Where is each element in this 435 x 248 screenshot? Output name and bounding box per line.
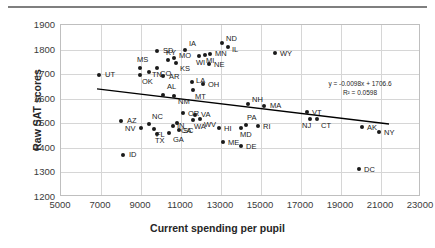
regression-r2: R² = 0.0598 (318, 88, 402, 97)
data-point-il[interactable] (226, 45, 230, 49)
data-point-pa[interactable] (244, 123, 248, 127)
data-point-ak[interactable] (360, 125, 364, 129)
data-point-dc[interactable] (357, 167, 361, 171)
scatter-chart: Raw SAT scores 1200130014001500160017001… (0, 0, 435, 248)
data-point-vt[interactable] (305, 110, 309, 114)
data-point-or[interactable] (181, 111, 185, 115)
data-point-label-nc: NC (152, 113, 163, 121)
data-point-label-ks: KS (180, 65, 190, 73)
data-point-label-ms: MS (137, 56, 148, 64)
data-point-ia[interactable] (183, 48, 187, 52)
data-point-ri[interactable] (256, 124, 260, 128)
data-point-label-wv: WV (204, 121, 216, 129)
data-point-label-md: MD (240, 131, 252, 139)
data-point-nd[interactable] (220, 41, 224, 45)
x-axis-tick-label: 21000 (367, 199, 393, 210)
x-axis-tick-label: 19000 (327, 199, 353, 210)
data-point-label-nv: NV (125, 125, 135, 133)
data-point-mt[interactable] (191, 88, 195, 92)
data-point-label-tx: TX (155, 137, 165, 145)
data-point-de[interactable] (239, 144, 243, 148)
data-point-label-me: ME (228, 139, 239, 147)
data-point-sd[interactable] (155, 49, 159, 53)
data-point-ky[interactable] (166, 58, 170, 62)
data-point-ct[interactable] (315, 117, 319, 121)
data-point-label-la: LA (196, 77, 205, 85)
data-point-nv[interactable] (139, 126, 143, 130)
data-point-ar[interactable] (161, 74, 165, 78)
data-point-label-al: AL (167, 83, 176, 91)
top-divider (8, 6, 427, 8)
y-axis-tick-label: 1900 (0, 19, 55, 30)
data-point-label-il: IL (232, 46, 238, 54)
data-point-mo[interactable] (172, 56, 176, 60)
data-point-ca[interactable] (175, 121, 179, 125)
x-axis-tick-label: 17000 (287, 199, 313, 210)
data-point-label-ny: NY (384, 129, 394, 137)
data-point-id[interactable] (121, 153, 125, 157)
data-point-ga[interactable] (167, 131, 171, 135)
data-point-label-nh: NH (252, 96, 263, 104)
data-point-ms[interactable] (138, 66, 142, 70)
data-point-mn[interactable] (208, 52, 212, 56)
y-axis-tick-label: 1400 (0, 141, 55, 152)
data-point-wv[interactable] (198, 117, 202, 121)
data-point-label-ca: CA (181, 127, 191, 135)
x-axis-tick-label: 5000 (49, 199, 70, 210)
y-axis-tick-label: 1200 (0, 191, 55, 202)
data-point-in[interactable] (171, 124, 175, 128)
y-axis-label: Raw SAT scores (31, 69, 43, 151)
data-point-tn[interactable] (147, 70, 151, 74)
data-point-label-ga: GA (173, 136, 184, 144)
data-point-ma[interactable] (262, 104, 266, 108)
y-axis-tick-label: 1700 (0, 68, 55, 79)
data-point-label-ia: IA (189, 40, 196, 48)
y-axis-tick-label: 1500 (0, 117, 55, 128)
y-axis-tick-label: 1800 (0, 43, 55, 54)
data-point-label-vt: VT (312, 109, 322, 117)
x-axis-tick-label: 9000 (129, 199, 150, 210)
x-axis-label: Current spending per pupil (0, 222, 435, 234)
y-axis-tick-label: 1300 (0, 166, 55, 177)
data-point-ut[interactable] (97, 73, 101, 77)
data-point-label-ak: AK (367, 124, 377, 132)
data-point-label-id: ID (129, 151, 137, 159)
y-axis-tick-label: 1600 (0, 92, 55, 103)
data-point-co[interactable] (155, 66, 159, 70)
data-point-label-ma: MA (270, 102, 281, 110)
data-point-ny[interactable] (377, 130, 381, 134)
x-axis-tick-label: 7000 (89, 199, 110, 210)
data-point-va[interactable] (193, 113, 197, 117)
regression-equation-line: y = -0.0098x + 1706.6 (318, 79, 402, 88)
x-axis-tick-label: 23000 (407, 199, 433, 210)
data-point-nm[interactable] (172, 94, 176, 98)
data-point-nc[interactable] (147, 122, 151, 126)
data-point-nh[interactable] (246, 102, 250, 106)
data-point-label-mo: MO (179, 52, 191, 60)
data-point-nj[interactable] (308, 117, 312, 121)
data-point-label-nj: NJ (302, 122, 311, 130)
x-axis-tick-label: 15000 (247, 199, 273, 210)
data-point-label-ct: CT (321, 122, 331, 130)
data-point-label-ok: OK (142, 78, 153, 86)
data-point-ne[interactable] (207, 62, 211, 66)
data-point-label-nd: ND (226, 35, 237, 43)
data-point-label-ri: RI (263, 123, 271, 131)
data-point-al[interactable] (161, 93, 165, 97)
data-point-label-va: VA (201, 111, 210, 119)
regression-equation: y = -0.0098x + 1706.6 R² = 0.0598 (318, 79, 402, 98)
data-point-label-hi: HI (224, 125, 232, 133)
data-point-hi[interactable] (217, 126, 221, 130)
x-axis-tick-label: 11000 (167, 199, 193, 210)
data-point-az[interactable] (119, 119, 123, 123)
data-point-la[interactable] (190, 80, 194, 84)
data-point-label-wi: WI (196, 59, 205, 67)
data-point-label-ar: AR (169, 73, 179, 81)
data-point-label-ut: UT (105, 71, 115, 79)
data-point-label-ne: NE (214, 61, 224, 69)
plot-area: UTIDAZMSOKTNSDCOKYMOKSARALNMNVNCFLTXGAIN… (60, 24, 420, 196)
data-point-me[interactable] (221, 140, 225, 144)
data-point-label-wy: WY (280, 50, 292, 58)
data-point-wy[interactable] (273, 51, 277, 55)
data-point-ks[interactable] (174, 61, 178, 65)
